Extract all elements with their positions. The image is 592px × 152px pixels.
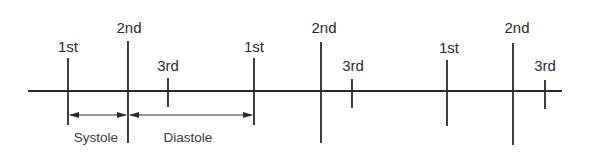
interval-diastole: Diastole: [130, 115, 252, 145]
label-2nd: 2nd: [504, 19, 529, 36]
sound-1st-a: 1st: [58, 38, 79, 125]
label-2nd: 2nd: [116, 19, 141, 36]
label-3rd: 3rd: [534, 57, 556, 74]
sound-3rd-c: 3rd: [534, 57, 556, 109]
sound-2nd-c: 2nd: [504, 19, 529, 145]
sound-2nd-a: 2nd: [116, 19, 141, 143]
heart-sound-timeline: 1st 1st 1st 2nd 2nd 2nd 3rd 3rd 3rd Syst…: [0, 0, 592, 152]
label-1st: 1st: [244, 38, 265, 55]
sound-3rd-b: 3rd: [342, 57, 364, 108]
label-1st: 1st: [439, 39, 460, 56]
sound-3rd-a: 3rd: [157, 57, 179, 107]
label-2nd: 2nd: [311, 19, 336, 36]
label-systole: Systole: [74, 130, 118, 145]
label-1st: 1st: [58, 38, 79, 55]
label-3rd: 3rd: [342, 57, 364, 74]
interval-systole: Systole: [70, 115, 126, 145]
sound-1st-c: 1st: [439, 39, 460, 126]
label-diastole: Diastole: [164, 130, 213, 145]
sound-2nd-b: 2nd: [311, 19, 336, 143]
sound-1st-b: 1st: [244, 38, 265, 125]
label-3rd: 3rd: [157, 57, 179, 74]
